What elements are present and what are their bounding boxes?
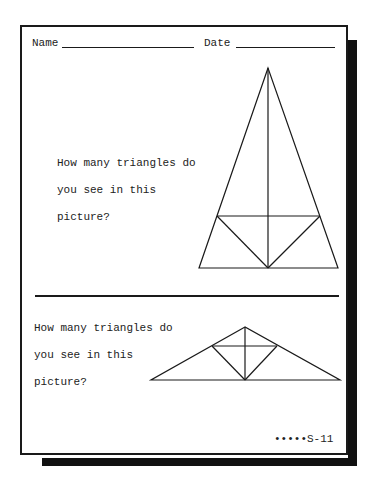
- tall-triangle-figure: [199, 68, 338, 268]
- figures-layer: [0, 0, 371, 484]
- page-code: •••••S-11: [274, 433, 333, 445]
- wide-triangle-figure: [151, 327, 340, 380]
